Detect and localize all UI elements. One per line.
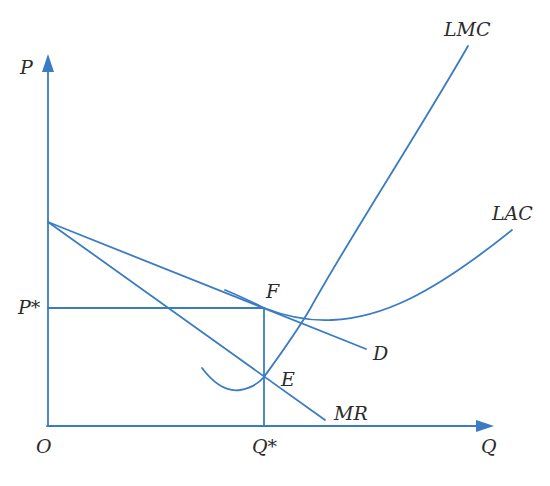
point-e-label: E <box>281 370 295 389</box>
point-f-label: F <box>266 282 279 301</box>
equilibrium-quantity-label: Q* <box>252 437 277 456</box>
y-axis <box>42 54 54 426</box>
lmc-label: LMC <box>444 20 491 39</box>
long-run-marginal-cost-curve <box>202 46 468 390</box>
y-axis-label: P <box>20 58 33 77</box>
long-run-average-cost-curve <box>225 230 512 320</box>
x-axis-arrow-icon <box>476 420 494 432</box>
cost-revenue-diagram: P Q O LMC LAC D MR F E P* Q* <box>0 0 550 486</box>
x-axis <box>47 420 494 432</box>
demand-label: D <box>373 344 388 363</box>
marginal-revenue-curve <box>48 222 325 420</box>
diagram-canvas <box>0 0 550 486</box>
y-axis-arrow-icon <box>42 54 54 72</box>
origin-label: O <box>36 437 52 456</box>
equilibrium-price-label: P* <box>18 298 40 317</box>
x-axis-label: Q <box>481 437 497 456</box>
lac-label: LAC <box>492 204 533 223</box>
mr-label: MR <box>334 404 368 423</box>
demand-curve <box>48 222 366 349</box>
